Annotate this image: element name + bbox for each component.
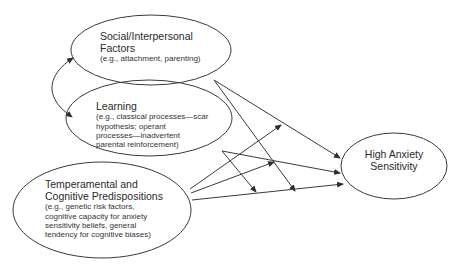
arrow-temperamental-moderation-learning bbox=[191, 162, 274, 193]
outcome-title-line-1: High Anxiety bbox=[354, 148, 434, 160]
social-title-line-1: Social/Interpersonal bbox=[100, 30, 201, 42]
learning-sub-line-1: (e.g., classical processes—scar bbox=[96, 112, 208, 121]
temperamental-sub-line-2: cognitive capacity for anxiety bbox=[45, 212, 163, 221]
temperamental-sub-line-1: (e.g., genetic risk factors, bbox=[45, 202, 163, 211]
temperamental-sub-line-3: sensitivity beliefs, general bbox=[45, 221, 163, 230]
learning-sub-line-4: parental reinforcement) bbox=[96, 140, 208, 149]
temperamental-title-line-1: Temperamental and bbox=[45, 178, 163, 190]
temperamental-title-line-2: Cognitive Predispositions bbox=[45, 190, 163, 202]
temperamental-sub-line-4: tendency for cognitive biases) bbox=[45, 230, 163, 239]
arrow-temperamental-to-outcome bbox=[192, 184, 343, 200]
social-factors-label: Social/Interpersonal Factors (e.g., atta… bbox=[100, 30, 201, 64]
learning-label: Learning (e.g., classical processes—scar… bbox=[96, 100, 208, 150]
social-title-line-2: Factors bbox=[100, 42, 201, 54]
arrow-social-moderation bbox=[214, 80, 295, 191]
high-anxiety-sensitivity-label: High Anxiety Sensitivity bbox=[354, 148, 434, 172]
learning-sub-line-2: hypothesis; operant bbox=[96, 122, 208, 131]
outcome-title-line-2: Sensitivity bbox=[354, 160, 434, 172]
arrow-learning-moderation bbox=[222, 151, 256, 192]
arrow-social-to-outcome bbox=[214, 80, 340, 158]
social-sub-line-1: (e.g., attachment, parenting) bbox=[100, 54, 201, 63]
learning-title: Learning bbox=[96, 100, 208, 112]
temperamental-label: Temperamental and Cognitive Predispositi… bbox=[45, 178, 163, 240]
learning-sub-line-3: processes—inadvertent bbox=[96, 131, 208, 140]
